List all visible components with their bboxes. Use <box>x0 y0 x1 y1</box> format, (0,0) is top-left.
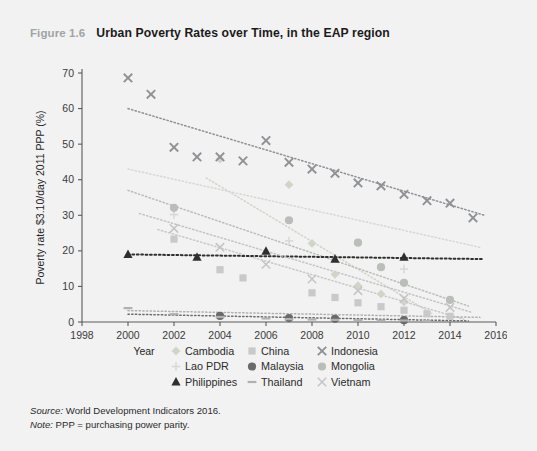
figure-title: Urban Poverty Rates over Time, in the EA… <box>96 26 390 40</box>
x-axis-tick-label: 2014 <box>438 329 462 341</box>
y-axis-tick-label: 60 <box>62 102 74 114</box>
marker-circle <box>446 296 454 304</box>
marker-circle <box>318 362 326 370</box>
chart-plot-area: 0102030405060701998200020022004200620082… <box>30 48 507 400</box>
marker-square <box>308 289 315 296</box>
legend-item-philippines[interactable]: Philippines <box>171 376 237 388</box>
legend-item-vietnam[interactable]: Vietnam <box>318 376 371 388</box>
marker-triangle <box>192 252 201 261</box>
source-text: World Development Indicators 2016. <box>63 405 221 416</box>
marker-square <box>400 307 407 314</box>
y-axis-title: Poverty rate $3.10/day 2011 PPP (%) <box>34 110 46 284</box>
x-axis-tick-label: 2010 <box>346 329 370 341</box>
legend-label: Thailand <box>261 376 302 388</box>
marker-circle <box>377 263 385 271</box>
figure-card: Figure 1.6 Urban Poverty Rates over Time… <box>12 12 525 439</box>
trendline-indonesia <box>128 109 485 216</box>
y-axis-tick-label: 40 <box>62 173 74 185</box>
marker-diamond <box>172 347 181 356</box>
marker-square <box>423 310 430 317</box>
legend-item-indonesia[interactable]: Indonesia <box>318 345 378 357</box>
marker-square <box>170 236 177 243</box>
x-axis-tick-label: 1998 <box>70 329 94 341</box>
series-vietnam <box>170 224 454 311</box>
source-label: Source: <box>30 405 63 416</box>
y-axis-tick-label: 0 <box>68 316 74 328</box>
screenshot-root: Figure 1.6 Urban Poverty Rates over Time… <box>0 0 537 451</box>
poverty-rate-scatter-chart: 0102030405060701998200020022004200620082… <box>30 48 507 400</box>
legend-item-thailand[interactable]: Thailand <box>248 376 303 388</box>
marker-triangle <box>123 249 132 258</box>
y-axis-tick-label: 20 <box>62 244 74 256</box>
series-china <box>170 236 453 320</box>
series-indonesia <box>124 74 477 222</box>
marker-triangle <box>399 252 408 261</box>
marker-triangle <box>171 377 180 386</box>
trendline-vietnam <box>140 214 471 313</box>
x-axis-tick-label: 2000 <box>116 329 140 341</box>
legend-label: Philippines <box>185 376 238 388</box>
note-text: PPP = purchasing power parity. <box>53 419 189 430</box>
x-axis-tick-label: 2002 <box>162 329 186 341</box>
y-axis-tick-label: 70 <box>62 67 74 79</box>
marker-circle <box>354 239 362 247</box>
legend-label: Vietnam <box>331 376 370 388</box>
legend-item-mongolia[interactable]: Mongolia <box>318 360 375 372</box>
marker-square <box>248 347 255 354</box>
marker-diamond <box>377 289 386 298</box>
figure-header: Figure 1.6 Urban Poverty Rates over Time… <box>30 26 390 40</box>
marker-triangle <box>330 254 339 263</box>
legend-item-china[interactable]: China <box>248 345 289 357</box>
x-axis-tick-label: 2004 <box>208 329 232 341</box>
marker-circle <box>285 216 293 224</box>
x-axis-tick-label: 2006 <box>254 329 278 341</box>
legend-item-cambodia[interactable]: Cambodia <box>172 345 235 357</box>
figure-number: Figure 1.6 <box>30 27 85 39</box>
legend-label: Mongolia <box>331 360 375 372</box>
marker-circle <box>248 362 256 370</box>
marker-square <box>446 313 453 320</box>
source-line: Source: World Development Indicators 201… <box>30 404 221 418</box>
marker-square <box>239 274 246 281</box>
marker-square <box>377 303 384 310</box>
marker-square <box>216 266 223 273</box>
marker-circle <box>400 279 408 287</box>
marker-diamond <box>285 180 294 189</box>
trendline-cambodia <box>206 178 431 314</box>
marker-square <box>354 299 361 306</box>
marker-circle <box>170 204 178 212</box>
x-axis-tick-label: 2016 <box>484 329 507 341</box>
series-philippines <box>123 246 408 262</box>
y-axis-tick-label: 50 <box>62 138 74 150</box>
legend-item-lao-pdr[interactable]: Lao PDR <box>172 360 229 372</box>
figure-notes: Source: World Development Indicators 201… <box>30 404 221 431</box>
legend-label: China <box>261 345 289 357</box>
legend-label: Cambodia <box>185 345 234 357</box>
x-axis-title: Year <box>133 345 155 357</box>
trendline-malaysia <box>128 314 468 321</box>
x-axis-tick-label: 2012 <box>392 329 416 341</box>
y-axis-tick-label: 30 <box>62 209 74 221</box>
legend-label: Indonesia <box>331 345 378 357</box>
trendline-mongolia <box>128 190 468 306</box>
legend-item-malaysia[interactable]: Malaysia <box>248 360 304 372</box>
legend-label: Lao PDR <box>185 360 229 372</box>
note-label: Note: <box>30 419 53 430</box>
x-axis-tick-label: 2008 <box>300 329 324 341</box>
y-axis-tick-label: 10 <box>62 280 74 292</box>
trendline-philippines <box>128 254 482 259</box>
legend-label: Malaysia <box>261 360 304 372</box>
marker-square <box>331 294 338 301</box>
note-line: Note: PPP = purchasing power parity. <box>30 418 221 432</box>
marker-triangle <box>261 246 270 255</box>
